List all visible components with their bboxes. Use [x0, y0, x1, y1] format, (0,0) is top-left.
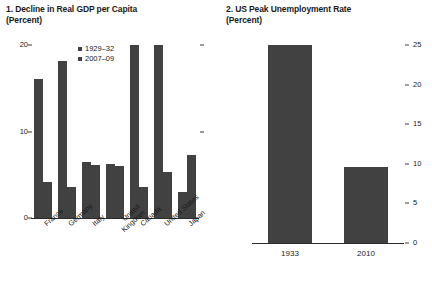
- x-axis-label: 1933: [281, 249, 299, 258]
- bar-series1: [106, 164, 115, 218]
- bar-1933: [268, 45, 312, 243]
- y-tick-mark: [405, 243, 409, 244]
- x-axis-label: 2010: [357, 249, 375, 258]
- y-tick-mark: [28, 131, 32, 132]
- y-tick-mark: [405, 124, 409, 125]
- y-tick-label: 0: [413, 239, 417, 247]
- plot-area-gdp: 01020: [31, 45, 199, 218]
- legend-swatch-2007: [78, 57, 82, 61]
- y-tick-mark: [28, 218, 32, 219]
- x-axis-line-right: [252, 243, 404, 244]
- y-tick-label: 5: [413, 199, 417, 207]
- y-tick-mark-mirror: [200, 45, 204, 46]
- bar-group: [31, 45, 55, 218]
- legend-swatch-1929: [78, 47, 82, 51]
- bar-group: [79, 45, 103, 218]
- bar-group: [328, 45, 404, 243]
- y-tick-label: 20: [413, 81, 421, 89]
- y-tick-label: 20: [20, 41, 28, 49]
- legend-gdp: 1929–32 2007–09: [78, 44, 114, 64]
- bar-group: [55, 45, 79, 218]
- panel-1-title: 1. Decline in Real GDP per Capita (Perce…: [6, 4, 196, 26]
- bar-series2: [115, 166, 124, 218]
- y-tick-mark: [405, 84, 409, 85]
- panel-2-title: 2. US Peak Unemployment Rate (Percent): [226, 4, 416, 26]
- legend-item-1929: 1929–32: [78, 44, 114, 54]
- plot-area-unemployment: 0510152025: [252, 45, 404, 243]
- bar-series2: [91, 165, 100, 218]
- y-tick-mark-mirror: [200, 131, 204, 132]
- y-tick-label: 25: [413, 41, 421, 49]
- bar-series1: [154, 45, 163, 218]
- bar-group: [151, 45, 175, 218]
- y-tick-label: 15: [413, 120, 421, 128]
- bar-series1: [34, 79, 43, 218]
- y-tick-mark: [405, 45, 409, 46]
- bar-group: [175, 45, 199, 218]
- figure: 1. Decline in Real GDP per Capita (Perce…: [0, 0, 432, 293]
- bar-group: [127, 45, 151, 218]
- y-tick-mark: [405, 203, 409, 204]
- legend-label-2007: 2007–09: [85, 54, 114, 64]
- bar-2010: [344, 167, 388, 243]
- bar-series1: [130, 45, 139, 218]
- y-tick-label: 10: [413, 160, 421, 168]
- y-tick-mark: [28, 45, 32, 46]
- bar-group: [103, 45, 127, 218]
- bar-group-container-gdp: [31, 45, 199, 218]
- bar-group-container-unemployment: [252, 45, 404, 243]
- bar-group: [252, 45, 328, 243]
- legend-item-2007: 2007–09: [78, 54, 114, 64]
- legend-label-1929: 1929–32: [85, 44, 114, 54]
- bar-series2: [163, 172, 172, 218]
- panel-unemployment: 2. US Peak Unemployment Rate (Percent) 0…: [216, 0, 432, 293]
- panel-gdp-decline: 1. Decline in Real GDP per Capita (Perce…: [0, 0, 216, 293]
- y-tick-label: 10: [20, 128, 28, 136]
- y-tick-mark: [405, 163, 409, 164]
- bar-series1: [58, 61, 67, 218]
